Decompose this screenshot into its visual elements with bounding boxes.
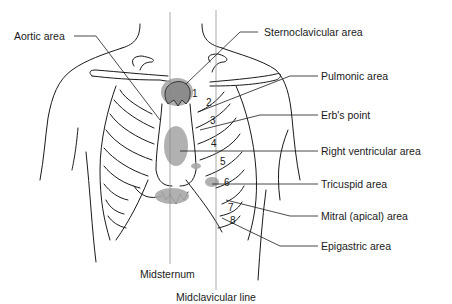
svg-text:4: 4	[211, 138, 217, 149]
intercostal-numbers: 1 2 3 4 5 6 7 8	[192, 88, 236, 226]
label-pulmonic-area: Pulmonic area	[321, 70, 388, 82]
svg-text:6: 6	[224, 177, 230, 188]
label-erbs-point: Erb's point	[321, 109, 370, 121]
label-aortic-area: Aortic area	[14, 30, 65, 42]
label-epigastric-area: Epigastric area	[321, 240, 391, 252]
svg-text:1: 1	[192, 88, 198, 99]
svg-text:8: 8	[230, 215, 236, 226]
label-midclavicular-line: Midclavicular line	[176, 291, 256, 303]
label-sternoclavicular-area: Sternoclavicular area	[264, 26, 363, 38]
label-right-ventricular-area: Right ventricular area	[321, 145, 421, 157]
label-tricuspid-area: Tricuspid area	[321, 178, 387, 190]
svg-text:7: 7	[228, 202, 234, 213]
label-midsternum: Midsternum	[140, 268, 195, 280]
label-mitral-apical-area: Mitral (apical) area	[321, 210, 408, 222]
svg-text:5: 5	[220, 156, 226, 167]
svg-text:2: 2	[206, 97, 212, 108]
svg-text:3: 3	[210, 115, 216, 126]
chest-diagram: 1 2 3 4 5 6 7 8 Aortic area Sternoclavic…	[0, 0, 452, 304]
